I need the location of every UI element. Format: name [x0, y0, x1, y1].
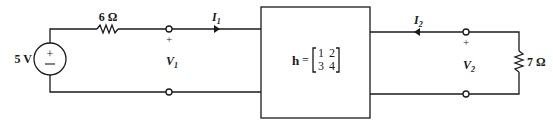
current-i1-label: I1 [211, 10, 221, 26]
wire-top-left [50, 29, 97, 43]
port1-terminal-bottom [166, 89, 172, 95]
port1-plus-sign: + [166, 33, 172, 45]
wire-bottom-right [469, 72, 519, 94]
matrix-h11: 1 [318, 46, 324, 60]
port1-voltage-label: V1 [166, 54, 178, 70]
port2-terminal-bottom [463, 91, 469, 97]
resistor-7ohm-label: 7 Ω [527, 55, 546, 69]
resistor-6ohm-label: 6 Ω [99, 10, 118, 24]
source-label: 5 V [15, 52, 33, 66]
matrix-h22: 4 [329, 59, 335, 73]
current-i1-arrow-icon [214, 25, 220, 33]
current-i2-label: I2 [413, 13, 423, 29]
source-plus-sign: + [47, 47, 54, 61]
two-port-network-box [261, 7, 370, 118]
matrix-right-bracket [336, 48, 339, 72]
voltage-source: + [34, 43, 66, 75]
wire-bottom-left [50, 75, 166, 92]
h-parameter-matrix: h = 1 2 3 4 [292, 46, 339, 73]
port1-terminal-top [166, 26, 172, 32]
current-i2-arrow-icon [414, 28, 420, 36]
resistor-7ohm [515, 51, 523, 72]
port2-terminal-top [463, 29, 469, 35]
matrix-left-bracket [313, 48, 316, 72]
equals-sign: = [302, 53, 309, 67]
matrix-h12: 2 [329, 46, 335, 60]
port2-plus-sign: + [463, 36, 469, 48]
resistor-6ohm [97, 25, 118, 33]
port2-voltage-label: V2 [463, 58, 475, 74]
wire-top-right [469, 32, 519, 51]
circuit-diagram: + 5 V 6 Ω + V1 I1 h = 1 2 3 4 I2 + V2 7 … [0, 0, 553, 124]
h-symbol: h [292, 53, 300, 68]
matrix-h21: 3 [318, 59, 324, 73]
